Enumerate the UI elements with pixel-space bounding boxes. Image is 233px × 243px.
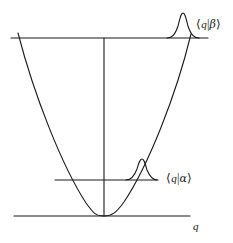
lower-state-symbol: α — [180, 172, 188, 185]
upper-state-label: ⟨q|β⟩ — [196, 18, 221, 30]
harmonic-oscillator-figure: ⟨q|β⟩ ⟨q|α⟩ q — [0, 0, 233, 243]
x-axis-label: q — [193, 221, 199, 232]
upper-state-close-bracket: ⟩ — [216, 17, 221, 31]
upper-gaussian-wavepacket — [167, 13, 199, 38]
lower-state-label: ⟨q|α⟩ — [166, 172, 192, 184]
lower-state-close-bracket: ⟩ — [187, 171, 192, 185]
figure-canvas — [0, 0, 233, 243]
lower-gaussian-wavepacket — [126, 159, 157, 180]
